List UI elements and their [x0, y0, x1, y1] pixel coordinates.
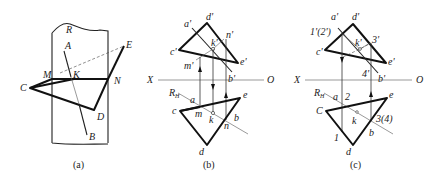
label-X: X: [146, 74, 154, 85]
label-K: K: [72, 69, 81, 80]
label-a: a: [333, 91, 338, 102]
label-d-prime: d': [352, 11, 360, 22]
label-d-prime: d': [206, 11, 214, 22]
line-ab-visible: [64, 51, 71, 77]
label-b-prime: b': [228, 73, 236, 84]
label-e: e: [243, 89, 248, 100]
label-d: d: [346, 146, 352, 157]
panel-c: X O a' d' 1'(2') k' 3' c' e' 4' b' RH a …: [293, 11, 423, 171]
arrow-up-n: [224, 92, 228, 98]
label-O: O: [416, 74, 423, 85]
point-k-prime: [359, 48, 362, 51]
label-n-prime: n': [226, 29, 234, 40]
label-RH: RH: [313, 87, 325, 99]
label-C: C: [20, 82, 27, 93]
label-C: C: [316, 105, 323, 116]
label-n: n: [224, 120, 229, 131]
label-k-prime: k': [355, 37, 362, 48]
label-E: E: [125, 39, 132, 50]
label-O: O: [267, 74, 274, 85]
label-k-prime: k': [211, 37, 218, 48]
label-e: e: [389, 89, 394, 100]
panel-b: X O a' d' k' n' c' m' e' b' RH a c m k e…: [146, 11, 274, 171]
label-M: M: [42, 69, 52, 80]
arrow-up-m: [198, 66, 202, 72]
label-RH: RH: [168, 87, 180, 99]
label-e-prime: e': [388, 56, 395, 67]
arrow-down-k: [211, 84, 215, 90]
label-1-2-prime: 1'(2'): [310, 26, 332, 38]
label-b: b: [369, 127, 374, 138]
label-b: b: [234, 112, 239, 123]
label-a-prime: a': [184, 18, 192, 29]
point-k: [356, 111, 359, 114]
line-ab-lower: [79, 104, 87, 135]
label-a-prime: a': [331, 11, 339, 22]
label-3-prime: 3': [371, 34, 380, 45]
label-3-4: 3(4): [375, 113, 393, 125]
arrow-down-12: [340, 57, 344, 63]
label-e-prime: e': [240, 56, 247, 67]
label-b-prime: b': [378, 73, 386, 84]
label-B: B: [89, 131, 95, 142]
label-c-prime: c': [170, 46, 177, 57]
label-N: N: [113, 75, 122, 86]
line-plane-intersection-diagram: R A B C D E M K N (a) X O a' d' k' n' c': [0, 0, 439, 183]
caption-b: (b): [203, 159, 215, 171]
caption-c: (c): [350, 159, 361, 171]
label-k: k: [352, 115, 357, 126]
label-D: D: [96, 111, 105, 122]
label-a: a: [190, 94, 195, 105]
label-m: m: [195, 108, 202, 119]
caption-a: (a): [73, 159, 84, 171]
label-R: R: [65, 24, 72, 35]
label-2: 2: [345, 91, 350, 102]
line-ab-hidden: [71, 77, 79, 104]
panel-a: R A B C D E M K N (a): [20, 23, 132, 171]
label-4-prime: 4': [362, 68, 370, 79]
label-k: k: [209, 114, 214, 125]
label-A: A: [64, 40, 72, 51]
label-X: X: [293, 74, 301, 85]
label-d: d: [199, 146, 205, 157]
label-m-prime: m': [184, 60, 194, 71]
arrow-up-34: [369, 91, 373, 97]
label-1: 1: [334, 132, 339, 143]
plane-r-outline: [52, 23, 108, 144]
label-c: c: [172, 105, 177, 116]
label-c-prime: c': [316, 46, 323, 57]
